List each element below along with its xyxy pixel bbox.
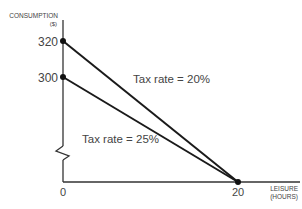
annotation-tax-20: Tax rate = 20% [133,73,210,85]
x-axis-unit: (HOURS) [270,193,298,201]
x-tick-20: 20 [232,186,244,198]
point-20 [235,179,241,185]
y-axis-break [56,146,69,160]
x-axis-label: LEISURE [270,185,298,192]
point-320 [60,38,66,44]
y-axis-label: CONSUMPTION [9,12,58,19]
point-300 [60,74,66,80]
y-tick-320: 320 [38,35,58,49]
y-axis-unit: ($) [50,21,57,27]
y-tick-300: 300 [38,71,58,85]
x-tick-0: 0 [60,186,66,198]
budget-constraint-chart: CONSUMPTION ($) 320 300 0 20 LEISURE (HO… [0,0,302,209]
line-tax-20 [63,41,238,182]
line-tax-25 [63,77,238,182]
annotation-tax-25: Tax rate = 25% [82,133,159,145]
